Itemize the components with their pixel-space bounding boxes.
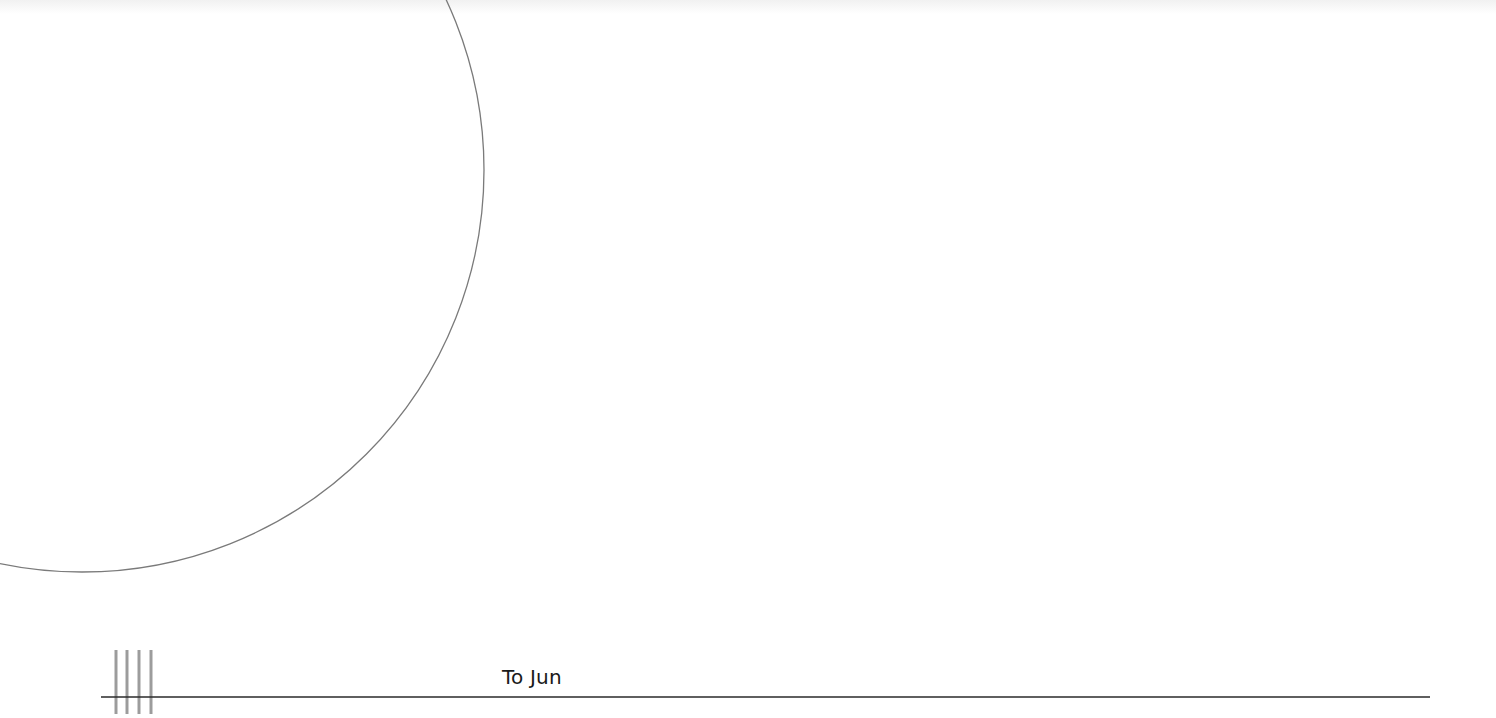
to-jun-label: To Jun xyxy=(502,665,562,689)
line-drawing xyxy=(0,0,1496,718)
large-circle-outline xyxy=(0,0,484,572)
scanned-page: To Jun xyxy=(0,0,1496,718)
tally-marks xyxy=(116,650,151,714)
